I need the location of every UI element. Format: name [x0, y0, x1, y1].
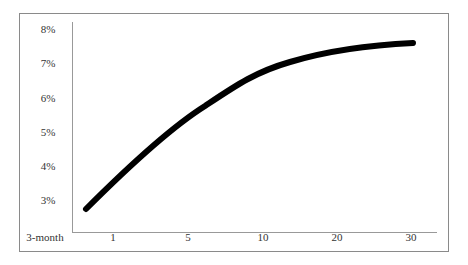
- y-tick-label: 6%: [41, 92, 56, 104]
- y-tick-label: 4%: [41, 160, 56, 172]
- yield-curve-chart: 8% 7% 6% 5% 4% 3% 3-month 1 5 10 20 30: [0, 0, 468, 265]
- x-tick-label: 20: [332, 231, 344, 243]
- x-tick-label: 3-month: [26, 231, 64, 243]
- x-tick-label: 5: [185, 231, 191, 243]
- x-tick-label: 10: [258, 231, 270, 243]
- y-tick-label: 3%: [41, 194, 56, 206]
- yield-curve-line: [86, 43, 413, 209]
- y-tick-label: 5%: [41, 126, 56, 138]
- x-tick-label: 1: [110, 231, 116, 243]
- y-tick-label: 8%: [41, 23, 56, 35]
- x-tick-label: 30: [406, 231, 418, 243]
- y-tick-label: 7%: [41, 57, 56, 69]
